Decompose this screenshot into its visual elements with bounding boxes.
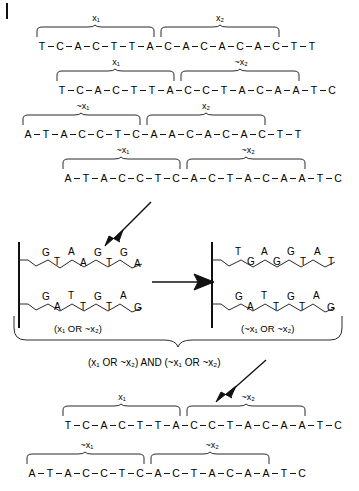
dna-base: T <box>62 420 74 431</box>
segment-label-not-x2: ~x₂ <box>196 441 228 450</box>
dna-base: G <box>42 248 50 258</box>
segment-brace-not-x2 <box>186 157 308 170</box>
segment-label-not-x2: ~x₂ <box>232 393 264 402</box>
dna-base: C <box>332 173 344 184</box>
dna-base: T <box>134 420 146 431</box>
dna-base: T <box>56 85 68 96</box>
dna-base: C <box>162 41 174 52</box>
dna-base: C <box>54 41 66 52</box>
dna-base: A <box>238 129 250 140</box>
dna-base: C <box>256 129 268 140</box>
dna-base: C <box>130 129 142 140</box>
dna-base: C <box>332 420 344 431</box>
dna-base: T <box>146 85 158 96</box>
sequence-bases-6: A T A C C T C A C T A C A A T C <box>26 465 308 481</box>
segment-label-x2: x₂ <box>194 102 218 111</box>
dna-base: A <box>206 468 218 479</box>
strand-letters-top: T G A G G T A T <box>211 246 351 274</box>
dna-base: C <box>182 85 194 96</box>
dna-base: A <box>272 85 284 96</box>
dna-base: A <box>314 247 321 257</box>
dna-base: A <box>296 173 308 184</box>
dna-base: G <box>287 292 295 302</box>
dna-base: A <box>26 468 38 479</box>
dna-base: A <box>148 129 160 140</box>
segment-label-not-x1: ~x₁ <box>72 441 102 450</box>
segment-brace-not-x2 <box>180 69 302 82</box>
dna-base: G <box>235 292 243 302</box>
dna-base: C <box>76 129 88 140</box>
dna-base: C <box>94 129 106 140</box>
dna-base: T <box>188 468 200 479</box>
dna-base: A <box>252 41 264 52</box>
dna-base: T <box>152 173 164 184</box>
dna-base: C <box>188 420 200 431</box>
dna-base: T <box>40 129 52 140</box>
dna-base: C <box>98 468 110 479</box>
dna-base: T <box>68 291 74 301</box>
dna-base: T <box>224 420 236 431</box>
segment-brace-x2 <box>160 25 282 38</box>
dna-base: C <box>296 468 308 479</box>
dna-base: A <box>180 41 192 52</box>
segment-label-x2: x₂ <box>208 14 232 23</box>
segment-brace-not-x1 <box>62 157 182 170</box>
segment-brace-not-x2 <box>150 452 272 465</box>
dna-base: T <box>300 257 306 267</box>
dna-base: G <box>42 292 50 302</box>
dna-base: A <box>166 129 178 140</box>
dna-base: G <box>287 247 295 257</box>
dna-base: A <box>296 420 308 431</box>
dna-base: T <box>36 41 48 52</box>
dna-base: A <box>144 41 156 52</box>
sequence-bases-2: T C A C T T A C C T A C A A T C <box>56 82 338 98</box>
dna-base: C <box>260 173 272 184</box>
dna-base: C <box>90 41 102 52</box>
dna-base: T <box>306 41 318 52</box>
segment-brace-x1 <box>56 69 176 82</box>
dna-base: C <box>206 173 218 184</box>
dna-base: A <box>242 420 254 431</box>
dna-base: T <box>235 247 241 257</box>
dna-base: A <box>242 468 254 479</box>
page-corner-tick <box>6 3 8 19</box>
dna-base: A <box>62 173 74 184</box>
dna-base: A <box>98 173 110 184</box>
dna-base: C <box>260 420 272 431</box>
dna-base: C <box>198 41 210 52</box>
dna-base: A <box>92 85 104 96</box>
dna-base: C <box>80 468 92 479</box>
segment-brace-x1 <box>62 404 182 417</box>
segment-label-not-x2: ~x₂ <box>226 58 256 67</box>
dna-base: A <box>290 85 302 96</box>
dna-base: A <box>313 291 320 301</box>
dna-base: A <box>202 129 214 140</box>
dna-base: T <box>314 420 326 431</box>
segment-brace-x1 <box>36 25 156 38</box>
combining-brace <box>12 316 348 352</box>
dna-base: A <box>134 259 141 269</box>
sequence-bases-4: A T A C C T C A C T A C A A T C <box>62 170 344 186</box>
dna-base: T <box>54 257 60 267</box>
dna-base: A <box>120 291 127 301</box>
dna-base: G <box>120 248 128 258</box>
dna-base: T <box>80 302 86 312</box>
dna-base: A <box>152 468 164 479</box>
arrow-right <box>152 274 218 290</box>
dna-base: T <box>106 302 112 312</box>
dna-base: A <box>261 247 268 257</box>
dna-base: T <box>328 257 334 267</box>
sequence-bases-1: T C A C T T A C A C A C A C T T <box>36 38 318 54</box>
segment-label-not-x1: ~x₁ <box>108 146 138 155</box>
dna-base: C <box>254 85 266 96</box>
dna-base: A <box>247 302 254 312</box>
dna-base: A <box>58 129 70 140</box>
dna-base: C <box>170 468 182 479</box>
dna-base: A <box>68 247 75 257</box>
dna-base: T <box>314 173 326 184</box>
dna-base: T <box>108 41 120 52</box>
segment-label-x1: x₁ <box>104 58 128 67</box>
segment-brace-not-x1 <box>26 452 146 465</box>
dna-base: A <box>278 173 290 184</box>
dna-base: T <box>218 85 230 96</box>
